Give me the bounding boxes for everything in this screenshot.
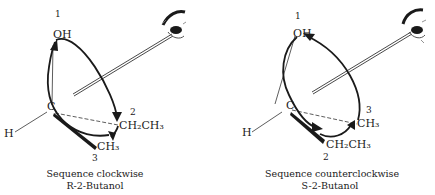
methyl-group-label: CH₃ bbox=[97, 141, 119, 152]
bond-c-oh bbox=[275, 36, 295, 104]
bond-c-h bbox=[15, 112, 47, 132]
sequence-arc-2-to-3 bbox=[320, 125, 351, 137]
caption-r: Sequence clockwise R-2-Butanol bbox=[40, 168, 150, 192]
panel-s-2-butanol: 1 OH C H 3 CH₃ CH₂CH₃ 2 Sequence counter… bbox=[217, 0, 434, 195]
ethyl-group-label: CH₂CH₃ bbox=[326, 139, 371, 150]
sight-line-b bbox=[74, 36, 173, 96]
priority-1-label: 1 bbox=[55, 10, 61, 19]
priority-1-label: 1 bbox=[295, 12, 301, 21]
carbon-label: C bbox=[47, 101, 55, 112]
priority-2-label: 2 bbox=[130, 108, 136, 117]
eye-icon bbox=[403, 10, 426, 43]
eye-icon bbox=[162, 12, 186, 39]
caption-sequence-clockwise: Sequence clockwise bbox=[40, 168, 150, 180]
s-butanol-structure-drawing bbox=[217, 0, 435, 195]
caption-sequence-counterclockwise: Sequence counterclockwise bbox=[265, 168, 395, 180]
bond-c-h bbox=[252, 112, 282, 132]
priority-3-label: 3 bbox=[366, 106, 372, 115]
hydrogen-label: H bbox=[4, 128, 14, 139]
priority-2-label: 2 bbox=[323, 153, 329, 162]
panel-r-2-butanol: 1 OH C H 2 CH₂CH₃ CH₃ 3 Sequence clockwi… bbox=[0, 0, 217, 195]
ethyl-group-label: CH₂CH₃ bbox=[119, 120, 164, 131]
r-butanol-structure-drawing bbox=[0, 0, 217, 195]
priority-3-label: 3 bbox=[92, 154, 98, 163]
sight-line-b bbox=[313, 34, 412, 94]
sequence-arc-1-to-2 bbox=[56, 39, 117, 118]
oh-group-label: OH bbox=[293, 28, 312, 39]
sight-line-a bbox=[73, 34, 172, 94]
caption-r-2-butanol: R-2-Butanol bbox=[40, 180, 150, 192]
arrowhead-at-2 bbox=[312, 122, 323, 132]
sequence-arc-3-to-1 bbox=[307, 36, 359, 120]
bond-c-methyl-wedge bbox=[53, 113, 97, 150]
hydrogen-label: H bbox=[242, 127, 252, 138]
caption-s: Sequence counterclockwise S-2-Butanol bbox=[265, 168, 395, 192]
carbon-label: C bbox=[286, 100, 294, 111]
caption-s-2-butanol: S-2-Butanol bbox=[265, 180, 395, 192]
sight-line-a bbox=[312, 32, 411, 92]
methyl-group-label: CH₃ bbox=[357, 118, 379, 129]
oh-group-label: OH bbox=[53, 29, 72, 40]
